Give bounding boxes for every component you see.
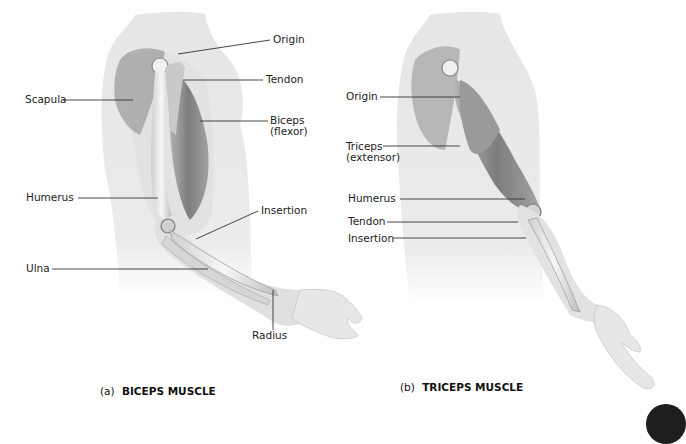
label-humerus-b: Humerus — [348, 193, 396, 204]
label-extensor: (extensor) — [346, 152, 400, 163]
label-insertion-a: Insertion — [261, 205, 307, 216]
panel-b-drawing — [397, 12, 654, 389]
label-origin-b: Origin — [346, 91, 378, 102]
caption-title-b: TRICEPS MUSCLE — [422, 381, 523, 393]
caption-triceps: (b) TRICEPS MUSCLE — [400, 381, 523, 393]
label-scapula: Scapula — [25, 94, 67, 105]
label-humerus-a: Humerus — [26, 192, 74, 203]
caption-title-a: BICEPS MUSCLE — [122, 385, 216, 397]
label-ulna: Ulna — [26, 263, 50, 274]
caption-prefix-a: (a) — [100, 385, 115, 397]
label-insertion-b: Insertion — [348, 233, 394, 244]
caption-prefix-b: (b) — [400, 381, 415, 393]
caption-biceps: (a) BICEPS MUSCLE — [100, 385, 216, 397]
label-radius: Radius — [252, 330, 287, 341]
label-tendon-b: Tendon — [348, 216, 386, 227]
panel-a-drawing — [102, 12, 362, 339]
label-tendon-a: Tendon — [266, 74, 304, 85]
label-origin-a: Origin — [273, 34, 305, 45]
corner-badge — [646, 404, 686, 444]
label-flexor: (flexor) — [270, 126, 308, 137]
